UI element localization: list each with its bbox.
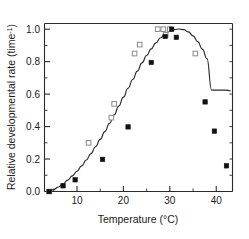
data-point-open-square xyxy=(155,27,160,32)
data-point-open-square xyxy=(137,42,142,47)
data-point-open-square xyxy=(112,102,117,107)
y-tick-label: 0.4 xyxy=(26,121,40,132)
data-point-open-square xyxy=(109,115,114,120)
x-tick-label: 30 xyxy=(164,195,176,206)
data-point-filled-square xyxy=(126,125,130,129)
data-point-filled-square xyxy=(100,157,104,161)
x-tick-label: 20 xyxy=(118,195,130,206)
data-point-filled-square xyxy=(163,34,167,38)
data-point-filled-square xyxy=(73,178,77,182)
data-point-filled-square xyxy=(224,164,228,168)
developmental-rate-scatter-chart: 10203040 0.00.20.40.60.81.0 Temperature … xyxy=(0,0,249,239)
y-tick-label: 1.0 xyxy=(26,24,40,35)
y-tick-label: 0.6 xyxy=(26,89,40,100)
data-point-open-square xyxy=(193,51,198,56)
y-axis-label-text: Relative developmental rate (time-1) xyxy=(5,24,17,190)
x-axis-label-text: Temperature (°C) xyxy=(98,213,179,225)
y-tick-label: 0.0 xyxy=(26,186,40,197)
data-point-filled-square xyxy=(212,129,216,133)
x-tick-label: 10 xyxy=(71,195,83,206)
figure-container: 10203040 0.00.20.40.60.81.0 Temperature … xyxy=(0,0,249,239)
data-point-filled-square xyxy=(47,189,51,193)
data-point-filled-square xyxy=(149,60,153,64)
data-point-open-square xyxy=(86,141,91,146)
x-tick-label: 40 xyxy=(211,195,223,206)
data-point-open-square xyxy=(161,27,166,32)
data-point-filled-square xyxy=(169,27,173,31)
data-point-filled-square xyxy=(61,184,65,188)
y-tick-label: 0.8 xyxy=(26,56,40,67)
data-point-filled-square xyxy=(203,100,207,104)
y-tick-label: 0.2 xyxy=(26,154,40,165)
data-point-open-square xyxy=(132,51,137,56)
x-axis-label: Temperature (°C) xyxy=(98,213,179,225)
data-point-filled-square xyxy=(174,35,178,39)
y-axis-label: Relative developmental rate (time-1) xyxy=(5,24,17,190)
